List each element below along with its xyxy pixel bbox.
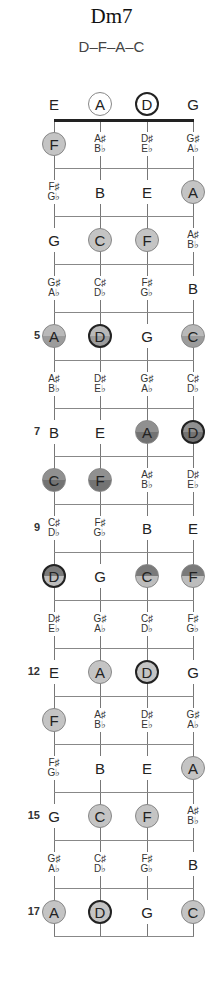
chord-note-a: A (42, 324, 66, 348)
note-cell: E (133, 754, 161, 782)
root-note-d: D (135, 660, 159, 684)
fret-line (54, 216, 194, 217)
note-cell: G (133, 322, 161, 350)
note-cell: D♯E♭ (133, 706, 161, 734)
note-label: B (188, 857, 198, 872)
fret-number: 7 (26, 425, 40, 437)
note-label: G (48, 233, 60, 248)
fret-line (54, 600, 194, 601)
note-cell: G♯A♭ (133, 370, 161, 398)
chord-note-c: C (181, 900, 205, 924)
chord-note-a: A (88, 660, 112, 684)
enharmonic-label: A♯B♭ (48, 374, 60, 394)
note-cell: B (86, 754, 114, 782)
fret-number: 5 (26, 329, 40, 341)
note-cell: G♯A♭ (86, 610, 114, 638)
note-label: B (188, 281, 198, 296)
fretboard: EADGFA♯B♭D♯E♭G♯A♭F♯G♭BEAGCFA♯B♭G♯A♭C♯D♭F… (0, 0, 223, 999)
chord-note-f: F (181, 564, 205, 588)
note-cell: G♯A♭ (40, 274, 68, 302)
fret-line (54, 744, 194, 745)
note-cell: C♯D♭ (40, 514, 68, 542)
enharmonic-label: G♯A♭ (187, 134, 200, 154)
note-cell: F♯G♭ (86, 514, 114, 542)
enharmonic-label: A♯B♭ (187, 806, 199, 826)
note-label: G (141, 905, 153, 920)
note-cell: G♯A♭ (179, 706, 207, 734)
note-cell: B (179, 274, 207, 302)
note-cell: G (179, 658, 207, 686)
enharmonic-label: C♯D♭ (94, 854, 106, 874)
enharmonic-label: G♯A♭ (48, 854, 61, 874)
enharmonic-label: F♯G♭ (187, 614, 200, 634)
note-cell: D♯E♭ (40, 610, 68, 638)
note-cell: G♯A♭ (179, 130, 207, 158)
note-cell: D♯E♭ (86, 370, 114, 398)
chord-note-f: F (88, 468, 112, 492)
enharmonic-label: C♯D♭ (94, 278, 106, 298)
enharmonic-label: D♯E♭ (48, 614, 60, 634)
note-cell: B (40, 418, 68, 446)
note-cell: C♯D♭ (133, 610, 161, 638)
enharmonic-label: F♯G♭ (141, 278, 154, 298)
note-label: E (95, 425, 105, 440)
chord-note-c: C (88, 804, 112, 828)
note-cell: B (133, 514, 161, 542)
fret-line (54, 312, 194, 313)
note-cell: A♯B♭ (179, 802, 207, 830)
fret-line (54, 456, 194, 457)
note-cell: B (86, 178, 114, 206)
note-cell: F♯G♭ (133, 274, 161, 302)
note-cell: G (40, 802, 68, 830)
note-cell: G (133, 898, 161, 926)
fret-line (54, 792, 194, 793)
root-note-d: D (88, 324, 112, 348)
enharmonic-label: A♯B♭ (94, 134, 106, 154)
note-cell: E (133, 178, 161, 206)
root-note-d: D (42, 564, 66, 588)
enharmonic-label: G♯A♭ (48, 278, 61, 298)
note-cell: E (179, 514, 207, 542)
enharmonic-label: C♯D♭ (48, 518, 60, 538)
note-label: B (49, 425, 59, 440)
fret-line (54, 648, 194, 649)
fret-line (54, 936, 194, 937)
chord-note-f: F (42, 132, 66, 156)
note-cell: F♯G♭ (40, 178, 68, 206)
nut (54, 119, 194, 122)
note-cell: E (86, 418, 114, 446)
open-note-a: A (88, 92, 112, 116)
note-cell: F♯G♭ (133, 850, 161, 878)
enharmonic-label: F♯G♭ (94, 518, 107, 538)
fret-line (54, 504, 194, 505)
root-note-d: D (181, 420, 205, 444)
note-cell: G♯A♭ (40, 850, 68, 878)
note-label: E (142, 761, 152, 776)
enharmonic-label: F♯G♭ (48, 182, 61, 202)
enharmonic-label: G♯A♭ (94, 614, 107, 634)
note-cell: A♯B♭ (179, 226, 207, 254)
note-cell: F♯G♭ (179, 610, 207, 638)
enharmonic-label: D♯E♭ (141, 710, 153, 730)
chord-note-c: C (181, 324, 205, 348)
fret-number: 15 (26, 809, 40, 821)
enharmonic-label: G♯A♭ (141, 374, 154, 394)
enharmonic-label: F♯G♭ (48, 758, 61, 778)
open-note-d: D (135, 92, 159, 116)
enharmonic-label: D♯E♭ (94, 374, 106, 394)
fret-line (54, 264, 194, 265)
fret-line (54, 408, 194, 409)
enharmonic-label: C♯D♭ (141, 614, 153, 634)
note-cell: C♯D♭ (86, 850, 114, 878)
chord-note-f: F (135, 228, 159, 252)
note-label: G (94, 569, 106, 584)
fret-number: 12 (26, 665, 40, 677)
note-label: E (188, 521, 198, 536)
root-note-d: D (88, 900, 112, 924)
chord-note-a: A (181, 180, 205, 204)
enharmonic-label: A♯B♭ (141, 470, 153, 490)
note-label: G (141, 329, 153, 344)
note-cell: E (40, 658, 68, 686)
note-cell: A♯B♭ (40, 370, 68, 398)
enharmonic-label: C♯D♭ (187, 374, 199, 394)
